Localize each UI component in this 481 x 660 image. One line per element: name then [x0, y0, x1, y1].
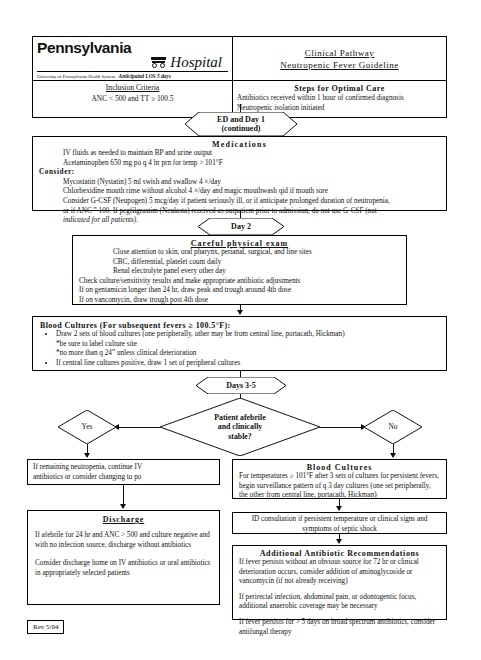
blood-cultures-1-sub-1: *be sure to label culture site: [56, 340, 439, 350]
header-top-row: Pennsylvania Hospital University of Penn…: [33, 37, 446, 81]
steps-line-1: Antibiotics received within 1 hour of co…: [237, 94, 442, 104]
phase2-label: Day 2: [231, 222, 251, 232]
anticipated-los: Anticipated LOS 5 days: [119, 73, 171, 79]
arrowhead-down-to-blood-cultures-2: [390, 453, 396, 458]
pathway-title-line2: Neutropenic Fever Guideline: [280, 59, 398, 71]
id-consultation-box: ID consultation if persistent temperatur…: [232, 512, 447, 534]
inclusion-criteria-heading: Inclusion Criteria: [36, 83, 229, 93]
medications-box: Medications IV fluids as needed to maint…: [32, 136, 447, 211]
blood-cultures-2-body: For temperatures ≥ 101°F after 3 sets of…: [239, 472, 440, 501]
exam-item-3: Renal electrolyte panel every other day: [79, 267, 400, 277]
careful-physical-exam-box: Careful physical exam Close attention to…: [72, 235, 407, 305]
medications-consider-1: Mycostatin (Nystatin) 5 ml swish and swa…: [39, 178, 440, 188]
blood-cultures-2-title: Blood Cultures: [239, 463, 440, 472]
additional-recommendations-box: Additional Antibiotic Recommendations If…: [232, 545, 447, 620]
id-consult-body: ID consultation if persistent temperatur…: [239, 515, 440, 534]
pathway-title-block: Clinical Pathway Neutropenic Fever Guide…: [233, 37, 446, 80]
arrowhead-down-to-continue: [84, 453, 90, 458]
exam-title: Careful physical exam: [79, 239, 400, 248]
continue-antibiotics-box: If remaining neutropenia, continue IV an…: [27, 459, 220, 485]
connector-decision-to-no: [320, 427, 364, 428]
additional-paragraph-3: If fever persists for > 5 days on broad …: [239, 618, 440, 637]
list-item: If central line cultures positive, draw …: [56, 359, 439, 369]
decision-patient-afebrile: Patient afebrile and clinically stable?: [160, 398, 320, 456]
pathway-title-line1: Clinical Pathway: [305, 47, 375, 59]
decision-branch-yes: Yes: [58, 410, 116, 444]
blood-cultures-box-2: Blood Cultures For temperatures ≥ 101°F …: [232, 459, 447, 499]
discharge-box: Discharge If afebrile for 24 hr and ANC …: [27, 510, 220, 605]
phase-marker-ed-day1: ED and Day 1 (continued): [185, 112, 297, 136]
hospital-emblem-icon: [151, 57, 167, 68]
arrowhead-down-to-blood-cultures: [237, 310, 243, 315]
additional-paragraph-2: If perirectal infection, abdominal pain,…: [239, 593, 440, 612]
medications-consider-2: Chlorhexidine mouth rinse without alcoho…: [39, 187, 440, 197]
decision-label: Patient afebrile and clinically stable?: [214, 413, 265, 442]
clinical-pathway-page: Pennsylvania Hospital University of Penn…: [0, 0, 481, 660]
medications-line-2: Acetaminophen 650 mg po q 4 hr prn for t…: [39, 159, 440, 169]
additional-title: Additional Antibiotic Recommendations: [239, 549, 440, 558]
discharge-paragraph-2: Consider discharge home on IV antibiotic…: [35, 559, 212, 578]
medications-title: Medications: [39, 140, 440, 149]
medications-line-1: IV fluids as needed to maintain BP and u…: [39, 149, 440, 159]
health-system-subline: University of Pennsylvania Health System…: [37, 71, 228, 79]
discharge-paragraph-1: If afebrile for 24 hr and ANC > 500 and …: [35, 531, 212, 550]
additional-paragraph-1: If fever persists without an obvious sou…: [239, 558, 440, 587]
phase-marker-day2: Day 2: [198, 218, 284, 235]
steps-heading: Steps for Optimal Care: [237, 83, 442, 94]
list-item: Draw 2 sets of blood cultures (one perip…: [56, 330, 439, 359]
medications-consider-label: Consider:: [39, 168, 440, 178]
arrowhead-down-to-additional: [336, 539, 342, 544]
phase-marker-days3-5: Days 3-5: [196, 377, 286, 394]
arrowhead-down-to-discharge: [120, 504, 126, 509]
blood-cultures-1-list: Draw 2 sets of blood cultures (one perip…: [40, 330, 439, 368]
revision-stamp: Rev 5/04: [27, 620, 64, 634]
no-label: No: [388, 422, 397, 432]
discharge-title: Discharge: [35, 515, 212, 524]
exam-line-2: If on gentamicin longer than 24 hr, draw…: [79, 286, 400, 296]
exam-line-1: Check culture/sensitivity results and ma…: [79, 277, 400, 287]
continue-line-2: antibiotics or consider changing to po: [33, 473, 214, 483]
logo-hospital-text: Hospital: [170, 55, 222, 70]
inclusion-criteria-body: ANC < 500 and TT ≥ 100.5: [36, 93, 229, 104]
arrowhead-down-to-id-consult: [336, 506, 342, 511]
logo-hospital-row: Hospital: [37, 55, 228, 70]
medications-consider-3: Consider G-CSF (Neupogen) 5 mcg/day if p…: [39, 197, 440, 207]
hospital-logo-block: Pennsylvania Hospital University of Penn…: [33, 37, 233, 80]
yes-label: Yes: [82, 422, 93, 432]
health-system-name: University of Pennsylvania Health System: [37, 74, 115, 79]
phase1-label: ED and Day 1 (continued): [217, 115, 265, 134]
exam-item-2: CBC, differential, platelet count daily: [79, 258, 400, 268]
blood-cultures-box-1: Blood Cultures (For subsequent fevers ≥ …: [32, 316, 447, 371]
continue-line-1: If remaining neutropenia, continue IV: [33, 463, 214, 473]
exam-item-1: Close attention to skin, oral pharynx, p…: [79, 248, 400, 258]
connector-decision-to-yes: [116, 427, 160, 428]
decision-branch-no: No: [364, 410, 422, 444]
blood-cultures-1-sub-2: *no more than q 24ˮ unless clinical dete…: [56, 349, 439, 359]
blood-cultures-1-bullet-1: Draw 2 sets of blood cultures (one perip…: [56, 330, 345, 338]
phase3-label: Days 3-5: [226, 381, 256, 391]
blood-cultures-1-bullet-2: If central line cultures positive, draw …: [56, 359, 240, 367]
blood-cultures-1-title: Blood Cultures (For subsequent fevers ≥ …: [40, 321, 439, 330]
